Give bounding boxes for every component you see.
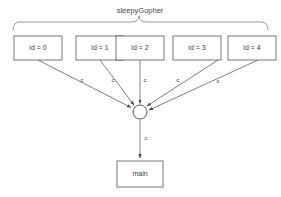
main-label: main [132, 170, 147, 177]
goroutine-node[interactable]: id = 4 [228, 36, 276, 60]
goroutine-node[interactable]: id = 0 [14, 36, 62, 60]
goroutine-label-id3: id = 3 [188, 44, 205, 51]
goroutine-label-id0: id = 0 [29, 44, 46, 51]
group-brace [13, 16, 268, 30]
edge-label-id4: c [217, 78, 220, 84]
goroutine-label-id2: id = 2 [131, 44, 148, 51]
sleepygopher-diagram: sleepyGopher id = 0 id = 1 id = 2 id = 3 [0, 0, 281, 197]
goroutine-node[interactable]: id = 2 [116, 36, 164, 60]
edge-group [38, 60, 258, 158]
diagram-canvas: sleepyGopher id = 0 id = 1 id = 2 id = 3 [0, 0, 281, 197]
edge-label-id1: c [112, 77, 115, 83]
edge-label-id3: c [177, 77, 180, 83]
edge-label-main: c [145, 135, 148, 141]
edge-label-id2: c [144, 77, 147, 83]
goroutine-node[interactable]: id = 3 [173, 36, 221, 60]
channel-junction-node[interactable] [133, 105, 147, 119]
group-title: sleepyGopher [117, 6, 164, 15]
edge-id1-to-channel [100, 60, 134, 105]
edge-id0-to-channel [38, 60, 131, 108]
goroutine-label-id1: id = 1 [91, 44, 108, 51]
goroutine-label-id4: id = 4 [243, 44, 260, 51]
edge-id4-to-channel [149, 60, 258, 110]
edge-label-id0: c [81, 77, 84, 83]
main-node[interactable]: main [117, 161, 163, 187]
brace-path [13, 16, 268, 30]
